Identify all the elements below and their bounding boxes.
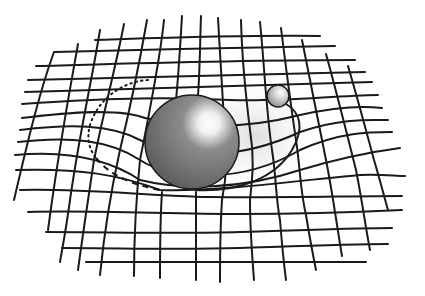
large-mass-sphere <box>145 95 239 189</box>
small-orbiting-sphere <box>267 85 289 107</box>
spacetime-diagram <box>0 0 425 296</box>
